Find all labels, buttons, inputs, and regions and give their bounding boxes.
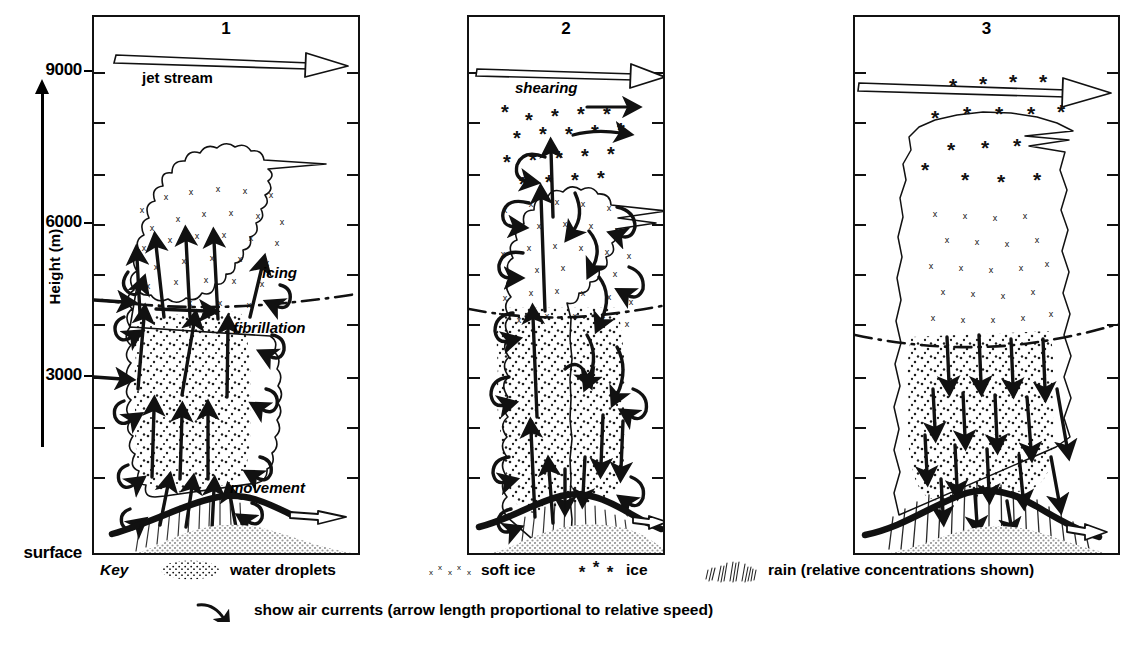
svg-text:*: * xyxy=(1013,134,1022,157)
panel-stage-3[interactable]: 3 xyxy=(853,15,1120,555)
svg-text:*: * xyxy=(579,563,586,581)
svg-text:x: x xyxy=(563,219,568,229)
y-axis-label-surface: surface xyxy=(0,543,82,563)
svg-text:x: x xyxy=(1031,287,1036,297)
svg-text:*: * xyxy=(961,168,970,191)
svg-text:x: x xyxy=(467,568,471,577)
rain-swatch-icon xyxy=(700,557,762,583)
svg-text:x: x xyxy=(195,231,200,241)
shearing-label: shearing xyxy=(515,79,578,96)
svg-text:x: x xyxy=(168,235,173,245)
svg-text:x: x xyxy=(249,233,254,243)
svg-text:x: x xyxy=(164,192,169,202)
svg-text:x: x xyxy=(204,275,209,285)
svg-text:x: x xyxy=(555,286,560,296)
svg-text:x: x xyxy=(140,205,145,215)
svg-text:*: * xyxy=(555,147,563,169)
svg-text:x: x xyxy=(941,287,946,297)
svg-text:x: x xyxy=(929,261,934,271)
svg-text:x: x xyxy=(535,265,540,275)
air-current-arrow-icon xyxy=(194,598,246,622)
svg-text:*: * xyxy=(501,101,509,123)
svg-text:x: x xyxy=(579,243,584,253)
svg-text:*: * xyxy=(607,563,614,581)
svg-text:x: x xyxy=(1023,211,1028,221)
svg-text:x: x xyxy=(429,568,433,577)
svg-text:*: * xyxy=(581,145,589,167)
key-label-soft-ice: soft ice xyxy=(481,561,535,579)
y-axis-label-3000: 3000 xyxy=(4,365,82,385)
svg-text:*: * xyxy=(529,149,537,171)
svg-text:*: * xyxy=(577,103,585,125)
svg-text:x: x xyxy=(1005,239,1010,249)
svg-text:x: x xyxy=(438,563,442,572)
svg-text:x: x xyxy=(581,199,586,209)
svg-text:*: * xyxy=(593,559,600,577)
icing-label: icing xyxy=(262,264,297,281)
svg-text:x: x xyxy=(269,190,274,200)
movement-label-1: movement xyxy=(230,479,305,496)
svg-text:x: x xyxy=(1001,291,1006,301)
svg-text:*: * xyxy=(617,119,625,141)
svg-text:x: x xyxy=(625,319,630,329)
svg-text:*: * xyxy=(597,167,605,189)
svg-text:*: * xyxy=(571,169,579,191)
movement-arrow-1 xyxy=(290,511,346,524)
key-label-ice: ice xyxy=(626,561,648,579)
ice-swatch-icon: *** xyxy=(572,559,624,581)
svg-text:x: x xyxy=(613,269,618,279)
svg-text:*: * xyxy=(539,123,547,145)
svg-text:*: * xyxy=(1027,102,1036,125)
svg-text:x: x xyxy=(971,289,976,299)
svg-text:x: x xyxy=(555,197,560,207)
svg-text:x: x xyxy=(275,238,280,248)
svg-text:x: x xyxy=(581,288,586,298)
svg-text:*: * xyxy=(947,138,956,161)
y-axis-label-9000: 9000 xyxy=(4,60,82,80)
svg-text:*: * xyxy=(921,158,930,181)
svg-text:x: x xyxy=(989,265,994,275)
svg-text:*: * xyxy=(551,105,559,127)
svg-text:x: x xyxy=(931,313,936,323)
svg-text:*: * xyxy=(981,136,990,159)
svg-text:x: x xyxy=(238,254,243,264)
svg-text:x: x xyxy=(607,203,612,213)
svg-text:x: x xyxy=(216,184,221,194)
svg-text:x: x xyxy=(527,243,532,253)
svg-text:*: * xyxy=(931,106,940,129)
svg-text:x: x xyxy=(229,208,234,218)
svg-text:*: * xyxy=(607,143,615,165)
y-axis-arrow xyxy=(41,92,44,447)
key-title: Key xyxy=(100,561,128,579)
water-droplets-swatch-icon xyxy=(160,559,220,581)
svg-text:*: * xyxy=(525,109,533,131)
svg-text:x: x xyxy=(561,263,566,273)
svg-text:x: x xyxy=(457,563,461,572)
svg-text:x: x xyxy=(1045,259,1050,269)
svg-text:x: x xyxy=(933,209,938,219)
svg-text:x: x xyxy=(945,235,950,245)
svg-text:x: x xyxy=(243,186,248,196)
svg-text:x: x xyxy=(176,214,181,224)
panel-2-drawing: *** *** *** ** *** ** *** * xxx xx xxx x… xyxy=(469,17,663,553)
panel-stage-2[interactable]: 2 xyxy=(467,15,665,555)
svg-text:x: x xyxy=(961,315,966,325)
svg-text:x: x xyxy=(503,293,508,303)
svg-text:x: x xyxy=(146,281,151,291)
svg-text:x: x xyxy=(222,230,227,240)
svg-text:x: x xyxy=(232,276,237,286)
svg-text:x: x xyxy=(553,241,558,251)
svg-text:x: x xyxy=(975,237,980,247)
panel-3-drawing: *** * *** ** *** *** * xxx x xxx x xxx x… xyxy=(855,17,1118,553)
svg-text:*: * xyxy=(1033,168,1042,191)
svg-text:x: x xyxy=(448,568,452,577)
svg-text:x: x xyxy=(587,265,592,275)
key-legend: Key water droplets xxx xx xyxy=(0,566,1134,653)
fibrillation-label: fibrillation xyxy=(233,319,306,336)
panel-stage-1[interactable]: 1 xyxy=(92,15,360,555)
svg-text:x: x xyxy=(174,277,179,287)
svg-text:*: * xyxy=(629,99,637,121)
y-axis-label-6000: 6000 xyxy=(4,212,82,232)
svg-text:x: x xyxy=(1019,263,1024,273)
key-label-water-droplets: water droplets xyxy=(230,561,336,579)
